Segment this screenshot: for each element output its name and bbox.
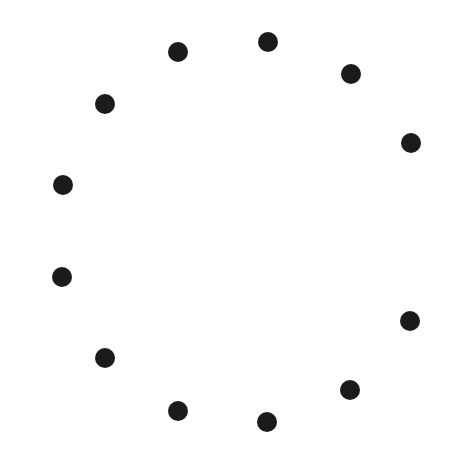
dot bbox=[168, 42, 188, 62]
dots-layer bbox=[0, 0, 455, 456]
dot bbox=[168, 401, 188, 421]
dot bbox=[53, 175, 73, 195]
dot bbox=[258, 32, 278, 52]
dot bbox=[341, 64, 361, 84]
dot bbox=[401, 133, 421, 153]
dot bbox=[52, 267, 72, 287]
dot bbox=[340, 380, 360, 400]
dot bbox=[400, 311, 420, 331]
dot bbox=[95, 348, 115, 368]
dot-circle-canvas bbox=[0, 0, 455, 456]
dot bbox=[95, 94, 115, 114]
dot bbox=[257, 412, 277, 432]
